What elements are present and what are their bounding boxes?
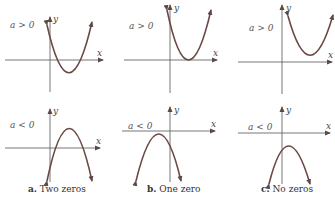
condition-label: a < 0 [248,122,273,132]
condition-label: a > 0 [10,20,35,30]
y-axis-label: y [52,106,59,116]
condition-label: a > 0 [129,21,154,31]
caption-text: No zeros [270,184,314,194]
condition-label: a < 0 [10,120,35,130]
parabola-curve [47,22,92,73]
x-axis-label: x [328,50,333,60]
x-axis-label: x [326,121,331,131]
parabola-curve [269,146,310,184]
condition-label: a > 0 [249,23,274,33]
parabola-curve [167,10,211,60]
parabola-curve [288,15,333,55]
panel-b-bottom: y x a < 0 [122,105,216,182]
y-axis-label: y [173,105,180,115]
caption-c: c. No zeros [261,184,313,194]
caption-b: b. One zero [147,184,200,194]
caption-text: Two zeros [37,184,86,194]
condition-label: a < 0 [128,121,153,131]
y-axis-label: y [52,14,59,24]
caption-letter: c. [261,184,270,194]
caption-text: One zero [156,184,200,194]
y-axis-label: y [285,3,292,13]
parabola-curve [47,129,92,182]
panel-a-top: y x a > 0 [5,14,103,92]
panel-c-top: y x a > 0 [238,3,333,94]
panel-c-bottom: y x a < 0 [238,105,331,184]
x-axis-label: x [97,48,102,58]
panel-a-bottom: y x a < 0 [5,106,101,182]
y-axis-label: y [285,105,292,115]
x-axis-label: x [213,48,218,58]
x-axis-label: x [211,119,216,129]
panel-b-top: y x a > 0 [124,3,218,93]
caption-letter: b. [147,184,156,194]
caption-letter: a. [28,184,37,194]
x-axis-label: x [96,136,101,146]
parabola-curve [136,134,181,181]
y-axis-label: y [173,3,180,13]
caption-a: a. Two zeros [28,184,86,194]
parabola-zeros-diagram: y x a > 0 y x a < 0 a. Two zeros y x a >… [0,0,335,202]
